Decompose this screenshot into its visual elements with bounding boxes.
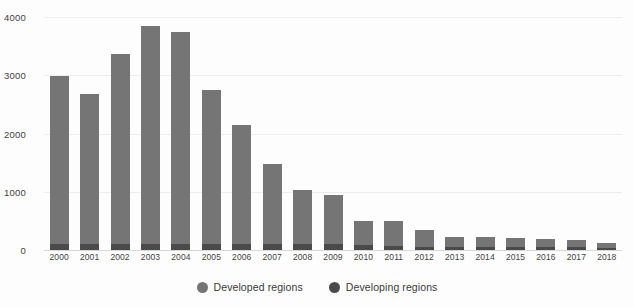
bar-stack[interactable] <box>536 239 555 250</box>
bar-segment-developing[interactable] <box>324 195 343 244</box>
bar-segment-developed[interactable] <box>597 248 616 250</box>
x-tick-label: 2017 <box>561 252 591 262</box>
bar-segment-developed[interactable] <box>384 246 403 250</box>
bar-group[interactable] <box>318 17 348 250</box>
chart-legend: Developed regionsDeveloping regions <box>0 281 634 293</box>
bar-segment-developed[interactable] <box>80 244 99 250</box>
bar-group[interactable] <box>166 17 196 250</box>
bar-segment-developed[interactable] <box>324 244 343 250</box>
x-tick-label: 2001 <box>74 252 104 262</box>
x-tick-label: 2002 <box>105 252 135 262</box>
bar-group[interactable] <box>74 17 104 250</box>
bar-segment-developing[interactable] <box>415 230 434 247</box>
bar-segment-developed[interactable] <box>293 244 312 250</box>
bar-group[interactable] <box>531 17 561 250</box>
bar-series-container <box>44 17 622 250</box>
bar-group[interactable] <box>379 17 409 250</box>
bar-segment-developing[interactable] <box>506 238 525 247</box>
x-tick-label: 2018 <box>592 252 622 262</box>
bar-segment-developed[interactable] <box>354 245 373 250</box>
bar-segment-developed[interactable] <box>50 244 69 250</box>
x-tick-label: 2015 <box>500 252 530 262</box>
legend-label: Developing regions <box>346 281 438 293</box>
bar-stack[interactable] <box>50 76 69 250</box>
gridline-0 <box>44 250 622 251</box>
bar-segment-developed[interactable] <box>567 247 586 250</box>
bar-segment-developing[interactable] <box>141 26 160 244</box>
bar-segment-developed[interactable] <box>445 247 464 250</box>
bar-stack[interactable] <box>111 54 130 250</box>
bar-group[interactable] <box>227 17 257 250</box>
bar-stack[interactable] <box>232 125 251 250</box>
x-tick-label: 2016 <box>531 252 561 262</box>
bar-stack[interactable] <box>415 230 434 250</box>
bar-segment-developed[interactable] <box>263 244 282 250</box>
bar-segment-developing[interactable] <box>50 76 69 244</box>
bar-stack[interactable] <box>324 195 343 250</box>
bar-group[interactable] <box>257 17 287 250</box>
legend-item[interactable]: Developed regions <box>197 281 303 293</box>
plot-area: 01000200030004000 <box>44 17 622 250</box>
bar-group[interactable] <box>500 17 530 250</box>
bar-segment-developed[interactable] <box>232 244 251 250</box>
bar-segment-developing[interactable] <box>567 240 586 247</box>
y-tick-label: 1000 <box>0 186 26 197</box>
bar-segment-developing[interactable] <box>202 90 221 243</box>
y-tick-label: 4000 <box>0 12 26 23</box>
x-axis-tick-labels: 2000200120022003200420052006200720082009… <box>44 252 622 262</box>
bar-segment-developed[interactable] <box>506 247 525 250</box>
bar-group[interactable] <box>105 17 135 250</box>
bar-stack[interactable] <box>445 237 464 250</box>
bar-segment-developing[interactable] <box>354 221 373 245</box>
x-tick-label: 2014 <box>470 252 500 262</box>
bar-segment-developing[interactable] <box>293 190 312 244</box>
bar-segment-developing[interactable] <box>536 239 555 247</box>
bar-group[interactable] <box>592 17 622 250</box>
bar-group[interactable] <box>439 17 469 250</box>
bar-stack[interactable] <box>506 238 525 250</box>
x-tick-label: 2008 <box>287 252 317 262</box>
bar-group[interactable] <box>409 17 439 250</box>
bar-group[interactable] <box>44 17 74 250</box>
bar-segment-developing[interactable] <box>476 237 495 247</box>
bar-stack[interactable] <box>202 90 221 250</box>
bar-segment-developing[interactable] <box>263 164 282 244</box>
bar-segment-developed[interactable] <box>415 247 434 250</box>
bar-segment-developed[interactable] <box>536 247 555 250</box>
bar-stack[interactable] <box>354 221 373 250</box>
bar-group[interactable] <box>135 17 165 250</box>
bar-stack[interactable] <box>80 94 99 250</box>
bar-stack[interactable] <box>476 237 495 250</box>
bar-segment-developing[interactable] <box>171 32 190 244</box>
bar-stack[interactable] <box>263 164 282 250</box>
bar-stack[interactable] <box>384 221 403 250</box>
bar-segment-developing[interactable] <box>111 54 130 244</box>
bar-segment-developed[interactable] <box>476 247 495 250</box>
x-tick-label: 2006 <box>227 252 257 262</box>
x-tick-label: 2007 <box>257 252 287 262</box>
legend-item[interactable]: Developing regions <box>329 281 438 293</box>
bar-stack[interactable] <box>567 240 586 250</box>
bar-segment-developing[interactable] <box>445 237 464 247</box>
bar-segment-developed[interactable] <box>171 244 190 250</box>
bar-segment-developing[interactable] <box>80 94 99 244</box>
bar-stack[interactable] <box>293 190 312 250</box>
bar-segment-developed[interactable] <box>202 244 221 250</box>
x-tick-label: 2011 <box>379 252 409 262</box>
bar-group[interactable] <box>561 17 591 250</box>
bar-segment-developed[interactable] <box>141 244 160 250</box>
bar-segment-developing[interactable] <box>232 125 251 244</box>
bar-group[interactable] <box>348 17 378 250</box>
bar-stack[interactable] <box>597 243 616 250</box>
bar-group[interactable] <box>470 17 500 250</box>
bar-stack[interactable] <box>171 32 190 250</box>
x-tick-label: 2010 <box>348 252 378 262</box>
bar-group[interactable] <box>196 17 226 250</box>
bar-segment-developing[interactable] <box>384 221 403 245</box>
bar-segment-developed[interactable] <box>111 244 130 250</box>
x-tick-label: 2009 <box>318 252 348 262</box>
bar-group[interactable] <box>287 17 317 250</box>
y-tick-label: 3000 <box>0 70 26 81</box>
circle-marker <box>329 282 340 293</box>
bar-stack[interactable] <box>141 26 160 250</box>
